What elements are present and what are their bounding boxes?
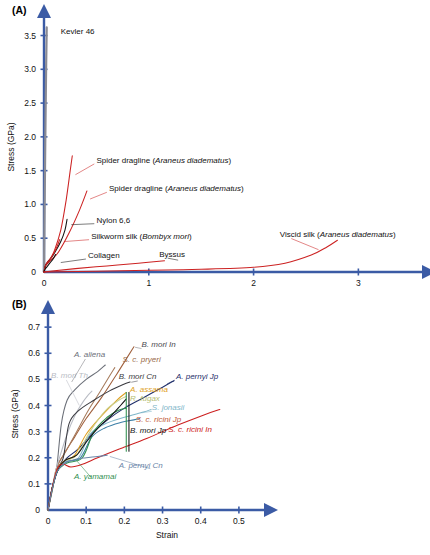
series-label: A. aliena	[73, 350, 106, 359]
x-tick-label: 0.1	[80, 516, 92, 526]
x-tick-label: 0.5	[233, 516, 245, 526]
y-tick-label: 2.5	[24, 98, 36, 108]
series-curve-b-mori-jp	[48, 399, 126, 510]
series-label: B. mori Jp	[130, 426, 167, 435]
series-label: S. jonasii	[152, 403, 185, 412]
x-axis-title: Strain	[156, 530, 178, 540]
y-tick-label: 0.2	[28, 453, 40, 463]
series-label: S. c. ricini In	[168, 425, 212, 434]
y-tick-label: 0.6	[28, 348, 40, 358]
leader-line	[75, 164, 94, 175]
series-label: R. fugax	[130, 394, 161, 403]
series-curve-a-aliena	[48, 365, 105, 510]
y-tick-label: 1.0	[24, 199, 36, 209]
panel-b-plot: 00.10.20.30.40.50.60.700.10.20.30.40.5St…	[0, 292, 430, 555]
series-label: B. mori Th	[51, 371, 88, 380]
series-curve-a-yamamai	[48, 408, 126, 510]
x-tick-label: 0.3	[157, 516, 169, 526]
y-tick-label: 0.7	[28, 322, 40, 332]
panel-a-svg: 00.51.01.52.02.53.03.50123StrainStress (…	[0, 0, 430, 292]
panel-b-svg: 00.10.20.30.40.50.60.700.10.20.30.40.5St…	[0, 292, 430, 555]
y-tick-label: 2.0	[24, 132, 36, 142]
series-label: Spider dragline (Araneus diadematus)	[109, 184, 244, 193]
series-label: A. pernyi Jp	[175, 372, 219, 381]
leader-line	[71, 224, 94, 225]
y-axis-title: Stress (GPa)	[10, 389, 20, 438]
leader-line	[61, 259, 86, 263]
series-label: A. pernyi Cn	[118, 461, 164, 470]
y-tick-label: 0	[35, 505, 40, 515]
series-label: Nylon 6,6	[96, 216, 130, 225]
x-tick-label: 2	[251, 278, 256, 288]
y-tick-label: 0.5	[24, 233, 36, 243]
series-curve-collagen	[44, 254, 56, 272]
series-label: Viscid silk (Araneus diadematus)	[280, 230, 396, 239]
series-curve-spider-dragline-araneus-diadematus-upper	[44, 156, 72, 272]
leader-line	[167, 380, 175, 384]
y-tick-label: 3.5	[24, 31, 36, 41]
x-tick-label: 0.2	[118, 516, 130, 526]
leader-line	[90, 192, 107, 199]
series-label: A. yamamai	[73, 472, 116, 481]
leader-line	[66, 380, 79, 406]
y-tick-label: 0.1	[28, 479, 40, 489]
series-label: B. mori Cn	[119, 372, 157, 381]
x-tick-label: 0	[46, 516, 51, 526]
series-label: S. c. ricini Jp	[136, 415, 182, 424]
series-label: Silkworm silk (Bombyx mori)	[91, 232, 192, 241]
x-tick-label: 0.4	[195, 516, 207, 526]
figure-stress-strain-curves: (A) 00.51.01.52.02.53.03.50123StrainStre…	[0, 0, 430, 555]
series-curve-s-c-pryeri	[48, 368, 115, 510]
y-tick-label: 0.3	[28, 427, 40, 437]
leader-line	[64, 240, 89, 242]
series-annotations: Kevler 46Spider dragline (Araneus diadem…	[61, 27, 396, 260]
leader-line	[291, 239, 318, 250]
panel-b: (B) 00.10.20.30.40.50.60.700.10.20.30.40…	[0, 292, 430, 555]
y-tick-label: 0	[31, 267, 36, 277]
panel-a: (A) 00.51.01.52.02.53.03.50123StrainStre…	[0, 0, 430, 292]
y-axis-title: Stress (GPa)	[6, 122, 16, 171]
series-label: Collagen	[88, 251, 120, 260]
y-tick-label: 0.4	[28, 401, 40, 411]
series-label: Byssus	[159, 250, 185, 259]
x-tick-label: 1	[146, 278, 151, 288]
series-label: S. c. pryeri	[122, 355, 160, 364]
x-tick-label: 3	[356, 278, 361, 288]
series-label: Spider dragline (Araneus diadematus)	[96, 156, 231, 165]
series-label: B. mori In	[142, 340, 177, 349]
panel-a-plot: 00.51.01.52.02.53.03.50123StrainStress (…	[0, 0, 430, 292]
x-tick-label: 0	[42, 278, 47, 288]
y-tick-label: 3.0	[24, 64, 36, 74]
y-tick-label: 1.5	[24, 166, 36, 176]
series-label: Kevler 46	[61, 27, 95, 36]
y-tick-label: 0.5	[28, 374, 40, 384]
series-label: A. assama	[129, 385, 168, 394]
